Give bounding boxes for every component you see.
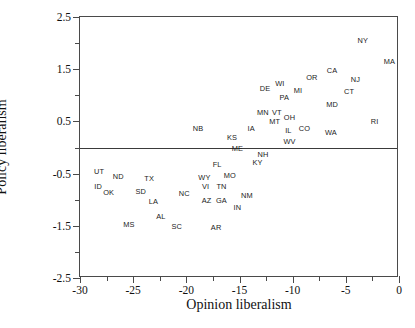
y-axis-minor-tick bbox=[75, 200, 80, 201]
data-point-label: PA bbox=[279, 95, 289, 102]
data-point-label: AR bbox=[211, 225, 221, 232]
data-point-label: CA bbox=[327, 68, 337, 75]
x-axis-tick-label: -5 bbox=[341, 284, 351, 296]
y-axis-minor-tick bbox=[75, 148, 80, 149]
data-point-label: MO bbox=[224, 172, 236, 179]
data-point-label: NY bbox=[358, 37, 368, 44]
data-point-label: MT bbox=[269, 118, 280, 125]
data-point-label: TN bbox=[216, 183, 226, 190]
data-point-label: VI bbox=[202, 183, 209, 190]
data-point-label: UT bbox=[94, 168, 104, 175]
y-axis-tick-label: 2.5 bbox=[57, 11, 71, 23]
y-axis-tick-label: -1.5 bbox=[53, 220, 71, 232]
y-axis-tick bbox=[73, 17, 80, 18]
data-point-label: FL bbox=[213, 161, 222, 168]
data-point-label: SC bbox=[172, 224, 182, 231]
x-axis-minor-tick bbox=[266, 276, 267, 281]
y-axis-title-text: Policy liberalism bbox=[0, 99, 10, 194]
data-point-label: OR bbox=[306, 74, 317, 81]
x-axis-tick-label: 0 bbox=[396, 284, 402, 296]
data-point-label: MD bbox=[326, 102, 338, 109]
y-axis-minor-tick bbox=[75, 252, 80, 253]
data-point-label: GA bbox=[216, 197, 227, 204]
data-point-label: CO bbox=[299, 125, 310, 132]
data-point-label: WI bbox=[275, 81, 284, 88]
x-axis-tick bbox=[133, 276, 134, 283]
x-axis-minor-tick bbox=[213, 276, 214, 281]
data-point-label: KS bbox=[227, 134, 237, 141]
y-axis-tick-label: 0.5 bbox=[57, 115, 71, 127]
x-axis-tick bbox=[293, 276, 294, 283]
data-point-label: SD bbox=[135, 189, 145, 196]
data-point-label: TX bbox=[144, 176, 154, 183]
data-point-label: AL bbox=[156, 214, 165, 221]
y-axis-tick bbox=[73, 121, 80, 122]
x-axis-minor-tick bbox=[107, 276, 108, 281]
x-axis-tick bbox=[80, 276, 81, 283]
x-axis-minor-tick bbox=[160, 276, 161, 281]
data-point-label: WA bbox=[325, 130, 337, 137]
data-point-label: OH bbox=[284, 114, 295, 121]
x-axis-minor-tick bbox=[319, 276, 320, 281]
y-axis-tick-label: 1.5 bbox=[57, 63, 71, 75]
x-axis-tick bbox=[240, 276, 241, 283]
data-point-label: CT bbox=[344, 88, 354, 95]
data-point-label: LA bbox=[149, 198, 158, 205]
data-point-label: MI bbox=[294, 87, 302, 94]
plot-area: 2.51.50.5-0.5-1.5-2.5 -30-25-20-15-10-50… bbox=[79, 16, 398, 277]
y-axis-title: Policy liberalism bbox=[0, 99, 10, 194]
data-point-label: WY bbox=[198, 174, 210, 181]
data-point-label: VT bbox=[272, 109, 282, 116]
x-axis-tick-label: -20 bbox=[179, 284, 194, 296]
y-axis-tick bbox=[73, 174, 80, 175]
data-point-label: IN bbox=[234, 204, 242, 211]
data-point-label: IA bbox=[248, 125, 255, 132]
data-point-label: RI bbox=[371, 119, 379, 126]
y-axis-tick bbox=[73, 226, 80, 227]
y-axis-tick bbox=[73, 278, 80, 279]
data-point-label: KY bbox=[253, 159, 263, 166]
x-axis-tick bbox=[399, 276, 400, 283]
data-point-label: IL bbox=[285, 127, 291, 134]
y-axis-tick bbox=[73, 69, 80, 70]
x-axis-title: Opinion liberalism bbox=[186, 297, 291, 313]
x-axis-tick bbox=[186, 276, 187, 283]
data-point-label: NC bbox=[179, 190, 190, 197]
data-point-label: NB bbox=[193, 125, 203, 132]
x-axis-tick-label: -15 bbox=[232, 284, 247, 296]
y-axis-minor-tick bbox=[75, 95, 80, 96]
x-axis-tick-label: -25 bbox=[125, 284, 140, 296]
y-axis-tick-label: -0.5 bbox=[53, 168, 71, 180]
data-point-label: NJ bbox=[351, 76, 360, 83]
scatter-plot-figure: Policy liberalism Opinion liberalism 2.5… bbox=[0, 0, 415, 328]
data-point-label: DE bbox=[260, 85, 270, 92]
data-point-label: MA bbox=[384, 58, 395, 65]
data-point-label: MS bbox=[123, 222, 134, 229]
y-axis-minor-tick bbox=[75, 43, 80, 44]
x-axis-tick-label: -10 bbox=[285, 284, 300, 296]
data-point-label: WV bbox=[283, 138, 295, 145]
x-axis-tick bbox=[346, 276, 347, 283]
y-axis-tick-label: -2.5 bbox=[53, 272, 71, 284]
data-point-label: ID bbox=[94, 183, 102, 190]
x-axis-minor-tick bbox=[372, 276, 373, 281]
data-point-label: NM bbox=[241, 192, 253, 199]
data-point-label: MN bbox=[257, 109, 269, 116]
data-point-label: ND bbox=[113, 173, 124, 180]
data-point-label: ME bbox=[232, 145, 243, 152]
x-axis-tick-label: -30 bbox=[72, 284, 87, 296]
data-point-label: OK bbox=[103, 190, 114, 197]
data-point-label: AZ bbox=[202, 197, 212, 204]
